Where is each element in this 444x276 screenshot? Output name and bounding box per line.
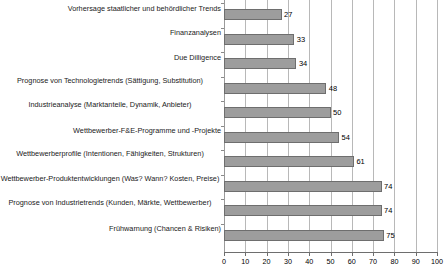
category-label: Prognose von Technologietrends (Sättigun… [0,77,221,86]
x-axis-tick-label: 70 [363,257,383,266]
bar [224,107,331,118]
bar-row: Wettbewerber-F&E-Programme und -Projekte… [0,126,444,151]
category-label: Prognose von Industrietrends (Kunden, Mä… [0,199,221,208]
bar-value-label: 48 [329,83,337,94]
x-axis-tick-label: 90 [406,257,426,266]
y-axis-tick [221,3,224,4]
y-axis-tick [221,52,224,53]
x-axis-tick [437,252,438,256]
x-axis-tick-label: 40 [299,257,319,266]
x-axis-tick [373,252,374,256]
bar [224,132,339,143]
category-label: Wettbewerber-Produktentwicklungen (Was? … [0,175,221,184]
y-axis-tick [221,199,224,200]
category-label: Due Dilligence [0,54,221,63]
bar-row: Finanzanalysen33 [0,28,444,53]
category-label: Vorhersage staatlicher und behördlicher … [0,5,221,14]
bar-value-label: 33 [297,34,305,45]
bar-value-label: 54 [342,132,350,143]
y-axis-tick [221,126,224,127]
x-axis-tick [288,252,289,256]
bar-row: Wettbewerberprofile (Intentionen, Fähigk… [0,150,444,175]
category-label: Wettbewerberprofile (Intentionen, Fähigk… [0,150,221,159]
category-label: Industrieanalyse (Marktanteile, Dynamik,… [0,101,221,110]
y-axis-tick [221,77,224,78]
bar-value-label: 27 [284,9,292,20]
bar-value-label: 74 [384,205,392,216]
x-axis-tick [267,252,268,256]
bar-row: Prognose von Technologietrends (Sättigun… [0,77,444,102]
x-axis-tick [331,252,332,256]
bar [224,58,296,69]
bar [224,156,354,167]
bar-value-label: 75 [386,230,394,241]
y-axis-tick [221,224,224,225]
x-axis-tick-label: 0 [214,257,234,266]
y-axis-tick [221,175,224,176]
x-axis-tick [394,252,395,256]
bar-value-label: 61 [356,156,364,167]
bar-row: Wettbewerber-Produktentwicklungen (Was? … [0,175,444,200]
bar-row: Prognose von Industrietrends (Kunden, Mä… [0,199,444,224]
x-axis-tick-label: 100 [427,257,444,266]
bar [224,83,326,94]
bar [224,181,382,192]
y-axis-tick [221,101,224,102]
bar [224,34,294,45]
x-axis-tick-label: 30 [278,257,298,266]
x-axis-tick-label: 10 [235,257,255,266]
bar-row: Frühwarnung (Chancen & Risiken)75 [0,224,444,249]
x-axis-tick-label: 50 [321,257,341,266]
x-axis-tick-label: 20 [257,257,277,266]
bar [224,9,282,20]
x-axis-tick [309,252,310,256]
x-axis-tick-label: 80 [384,257,404,266]
bar-row: Vorhersage staatlicher und behördlicher … [0,3,444,28]
bar [224,230,384,241]
category-label: Frühwarnung (Chancen & Risiken) [0,225,221,234]
bar [224,205,382,216]
x-axis-tick-label: 60 [342,257,362,266]
y-axis-tick [221,150,224,151]
x-axis-tick [224,252,225,256]
x-axis-tick [245,252,246,256]
bar-value-label: 34 [299,58,307,69]
bar-row: Industrieanalyse (Marktanteile, Dynamik,… [0,101,444,126]
x-axis-tick [352,252,353,256]
bar-row: Due Dilligence34 [0,52,444,77]
y-axis-tick [221,28,224,29]
bar-value-label: 50 [333,107,341,118]
bar-chart: Vorhersage staatlicher und behördlicher … [0,0,444,276]
x-axis-tick [416,252,417,256]
bar-value-label: 74 [384,181,392,192]
category-label: Finanzanalysen [0,29,221,38]
category-label: Wettbewerber-F&E-Programme und -Projekte [0,127,221,136]
